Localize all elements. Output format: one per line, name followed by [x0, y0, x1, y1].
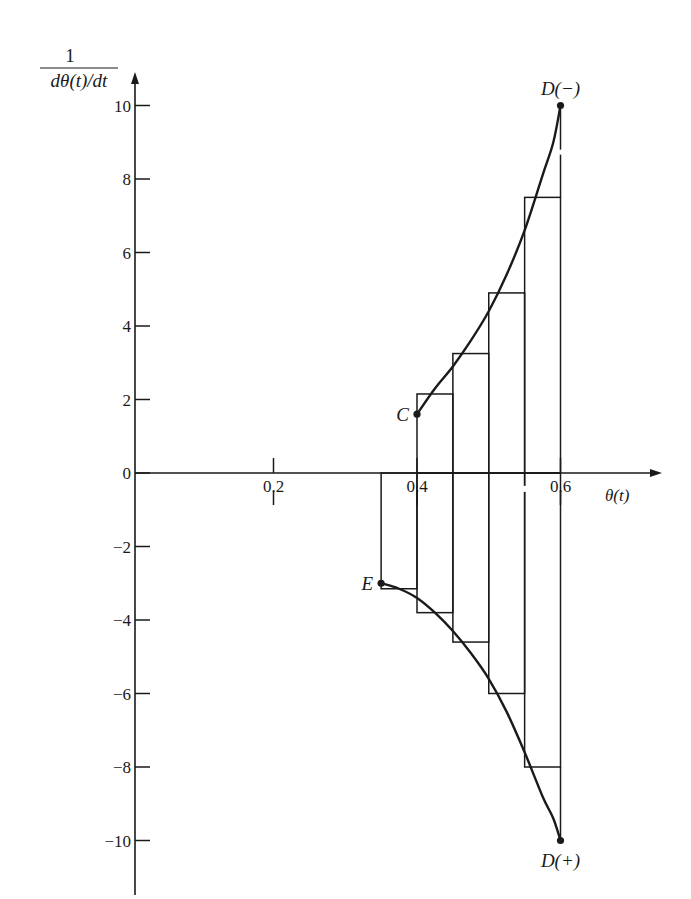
y-tick-label: −10	[104, 832, 131, 851]
point-label: D(+)	[540, 850, 580, 872]
point-marker-c	[413, 411, 420, 418]
x-tick-label: 0.6	[550, 477, 571, 496]
labels: θ(t)1dθ(t)/dtCD(−)ED(+)	[40, 45, 630, 872]
y-tick-label: −6	[113, 685, 131, 704]
step-bar	[453, 354, 489, 473]
x-axis-arrow-icon	[650, 469, 662, 477]
gap-mark	[523, 486, 527, 492]
point-label: D(−)	[540, 78, 580, 100]
y-tick-label: −8	[113, 758, 131, 777]
y-axis-label-numerator: 1	[65, 45, 75, 66]
step-bar	[453, 473, 489, 642]
point-label: E	[361, 573, 374, 594]
point-marker-d	[557, 102, 564, 109]
curve-lower-branch	[381, 583, 560, 840]
y-tick-label: 10	[114, 97, 131, 116]
step-bar	[525, 197, 561, 473]
point-marker-d+	[557, 837, 564, 844]
y-tick-label: 4	[123, 317, 132, 336]
point-label: C	[396, 404, 409, 425]
gap-mark	[559, 150, 563, 155]
y-tick-label: −2	[113, 538, 131, 557]
y-tick-label: −4	[113, 611, 132, 630]
point-marker-e	[378, 580, 385, 587]
x-tick-label: 0.2	[263, 477, 284, 496]
y-axis-label-denominator: dθ(t)/dt	[51, 70, 109, 92]
y-axis-arrow-icon	[131, 72, 139, 84]
step-bar	[489, 473, 525, 694]
y-tick-label: 8	[123, 170, 132, 189]
step-bar	[489, 293, 525, 473]
axes: 1086420−2−4−6−8−100.20.40.6	[104, 72, 662, 895]
y-tick-label: 6	[123, 244, 132, 263]
step-bar	[525, 473, 561, 767]
y-tick-label: 2	[123, 391, 132, 410]
x-axis-label: θ(t)	[605, 486, 630, 505]
x-tick-label: 0.4	[406, 477, 428, 496]
y-tick-label: 0	[123, 464, 132, 483]
chart-figure: 1086420−2−4−6−8−100.20.40.6 θ(t)1dθ(t)/d…	[0, 0, 691, 899]
